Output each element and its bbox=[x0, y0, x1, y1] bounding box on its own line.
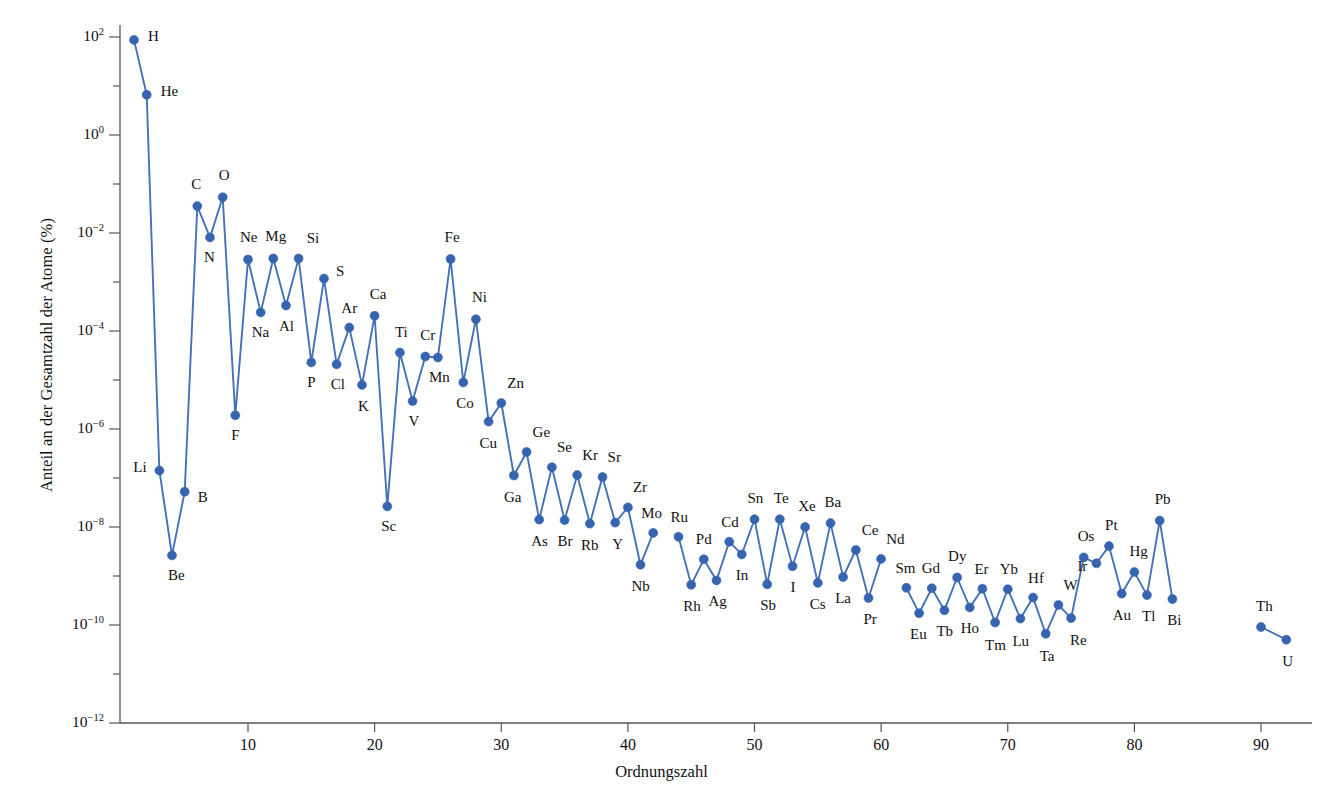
data-point-p[interactable] bbox=[307, 358, 316, 367]
data-point-ca[interactable] bbox=[370, 311, 379, 320]
data-point-y[interactable] bbox=[611, 518, 620, 527]
point-label-re: Re bbox=[1070, 633, 1087, 648]
data-point-cu[interactable] bbox=[484, 417, 493, 426]
data-point-se[interactable] bbox=[547, 463, 556, 472]
point-label-o: O bbox=[219, 168, 230, 183]
data-point-sn[interactable] bbox=[750, 515, 759, 524]
data-point-cl[interactable] bbox=[332, 360, 341, 369]
y-tick-label: 10−6 bbox=[77, 418, 104, 437]
data-point-br[interactable] bbox=[560, 516, 569, 525]
data-point-dy[interactable] bbox=[953, 573, 962, 582]
data-point-rb[interactable] bbox=[585, 519, 594, 528]
data-point-c[interactable] bbox=[193, 202, 202, 211]
data-point-ne[interactable] bbox=[244, 255, 253, 264]
data-point-ir[interactable] bbox=[1092, 559, 1101, 568]
data-point-yb[interactable] bbox=[1003, 585, 1012, 594]
data-point-ag[interactable] bbox=[712, 576, 721, 585]
data-point-re[interactable] bbox=[1067, 614, 1076, 623]
data-point-si[interactable] bbox=[294, 254, 303, 263]
data-point-pt[interactable] bbox=[1105, 542, 1114, 551]
data-point-ru[interactable] bbox=[674, 532, 683, 541]
data-point-tl[interactable] bbox=[1143, 591, 1152, 600]
point-label-cr: Cr bbox=[420, 328, 435, 343]
point-label-co: Co bbox=[456, 396, 474, 411]
point-label-kr: Kr bbox=[582, 448, 598, 463]
data-point-be[interactable] bbox=[168, 551, 177, 560]
data-point-cs[interactable] bbox=[813, 578, 822, 587]
data-point-th[interactable] bbox=[1257, 623, 1266, 632]
data-point-ho[interactable] bbox=[965, 603, 974, 612]
point-label-cu: Cu bbox=[480, 436, 498, 451]
data-point-cd[interactable] bbox=[725, 537, 734, 546]
data-point-k[interactable] bbox=[358, 380, 367, 389]
data-point-zr[interactable] bbox=[623, 503, 632, 512]
point-label-la: La bbox=[835, 591, 851, 606]
data-point-ce[interactable] bbox=[851, 546, 860, 555]
point-label-zr: Zr bbox=[633, 480, 647, 495]
data-point-ar[interactable] bbox=[345, 323, 354, 332]
data-point-b[interactable] bbox=[180, 487, 189, 496]
data-point-ni[interactable] bbox=[471, 315, 480, 324]
data-point-ge[interactable] bbox=[522, 448, 531, 457]
data-point-pd[interactable] bbox=[699, 555, 708, 564]
data-point-u[interactable] bbox=[1282, 635, 1291, 644]
data-point-sb[interactable] bbox=[763, 580, 772, 589]
data-point-ta[interactable] bbox=[1041, 629, 1050, 638]
data-point-f[interactable] bbox=[231, 411, 240, 420]
data-point-co[interactable] bbox=[459, 378, 468, 387]
data-point-w[interactable] bbox=[1054, 600, 1063, 609]
data-point-h[interactable] bbox=[130, 35, 139, 44]
point-label-f: F bbox=[231, 428, 239, 443]
data-point-nd[interactable] bbox=[877, 554, 886, 563]
data-point-he[interactable] bbox=[142, 90, 151, 99]
data-point-lu[interactable] bbox=[1016, 614, 1025, 623]
data-point-au[interactable] bbox=[1117, 589, 1126, 598]
point-label-ge: Ge bbox=[533, 425, 551, 440]
data-point-fe[interactable] bbox=[446, 255, 455, 264]
data-point-na[interactable] bbox=[256, 308, 265, 317]
data-point-tb[interactable] bbox=[940, 606, 949, 615]
data-point-v[interactable] bbox=[408, 397, 417, 406]
point-label-pb: Pb bbox=[1155, 492, 1171, 507]
data-point-mn[interactable] bbox=[433, 353, 442, 362]
data-point-mo[interactable] bbox=[649, 528, 658, 537]
data-point-ti[interactable] bbox=[395, 348, 404, 357]
data-point-mg[interactable] bbox=[269, 254, 278, 263]
data-line bbox=[134, 40, 1286, 640]
point-label-be: Be bbox=[168, 568, 185, 583]
data-point-kr[interactable] bbox=[573, 471, 582, 480]
point-label-sc: Sc bbox=[381, 519, 396, 534]
data-point-hf[interactable] bbox=[1029, 593, 1038, 602]
data-point-rh[interactable] bbox=[687, 580, 696, 589]
data-point-bi[interactable] bbox=[1168, 595, 1177, 604]
data-point-tm[interactable] bbox=[991, 618, 1000, 627]
data-point-pr[interactable] bbox=[864, 594, 873, 603]
data-point-er[interactable] bbox=[978, 584, 987, 593]
data-point-eu[interactable] bbox=[915, 609, 924, 618]
data-point-li[interactable] bbox=[155, 466, 164, 475]
data-point-la[interactable] bbox=[839, 573, 848, 582]
data-point-hg[interactable] bbox=[1130, 568, 1139, 577]
data-point-i[interactable] bbox=[788, 562, 797, 571]
data-point-sr[interactable] bbox=[598, 473, 607, 482]
data-point-o[interactable] bbox=[218, 193, 227, 202]
data-point-ba[interactable] bbox=[826, 519, 835, 528]
data-point-as[interactable] bbox=[535, 515, 544, 524]
data-point-ga[interactable] bbox=[509, 471, 518, 480]
data-point-s[interactable] bbox=[320, 274, 329, 283]
data-point-zn[interactable] bbox=[497, 399, 506, 408]
data-point-pb[interactable] bbox=[1155, 516, 1164, 525]
data-point-nb[interactable] bbox=[636, 560, 645, 569]
data-point-xe[interactable] bbox=[801, 523, 810, 532]
point-label-ne: Ne bbox=[240, 230, 258, 245]
data-point-cr[interactable] bbox=[421, 352, 430, 361]
data-point-sc[interactable] bbox=[383, 502, 392, 511]
point-label-rb: Rb bbox=[581, 538, 599, 553]
data-point-in[interactable] bbox=[737, 550, 746, 559]
data-point-n[interactable] bbox=[206, 233, 215, 242]
data-point-te[interactable] bbox=[775, 515, 784, 524]
data-point-gd[interactable] bbox=[927, 584, 936, 593]
data-point-al[interactable] bbox=[282, 301, 291, 310]
point-label-te: Te bbox=[774, 491, 789, 506]
data-point-sm[interactable] bbox=[902, 583, 911, 592]
